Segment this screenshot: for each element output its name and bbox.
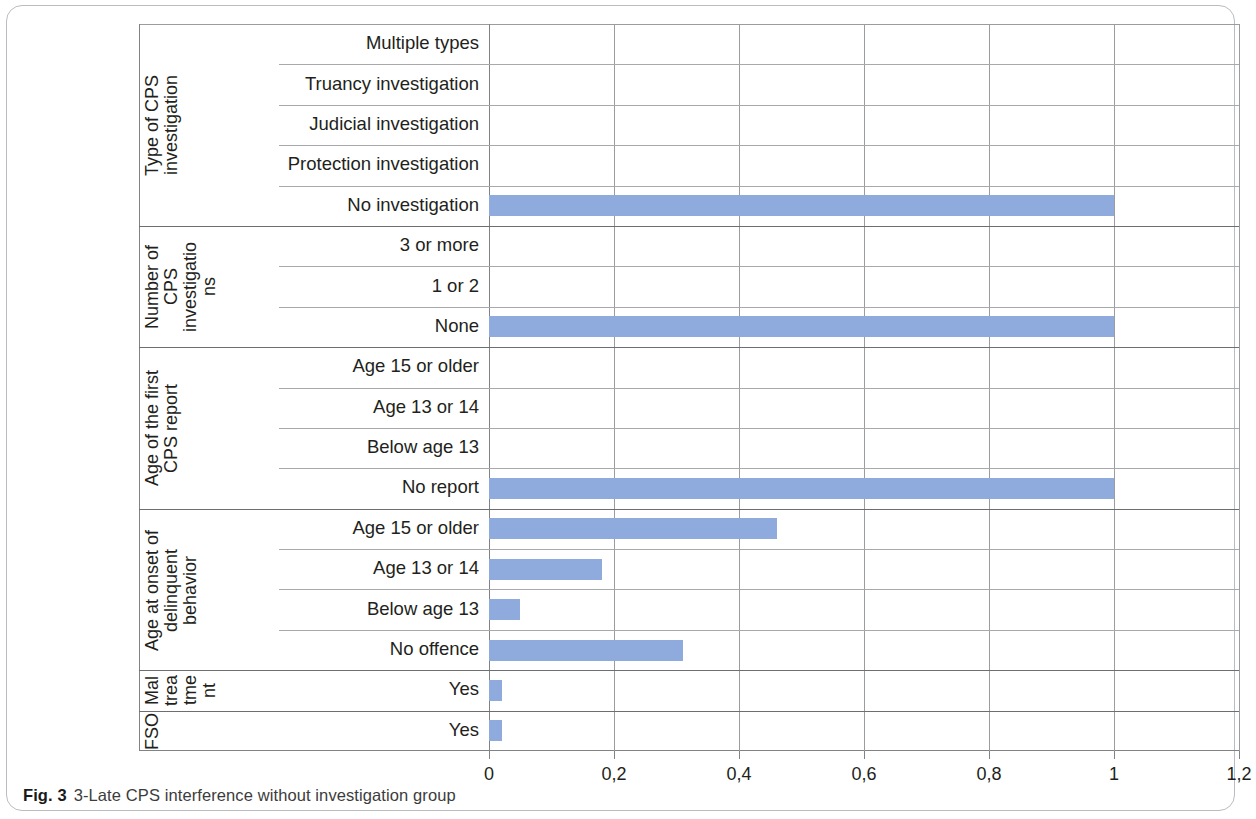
group-title: Type of CPS investigation (143, 24, 185, 226)
bar (489, 720, 502, 741)
row-separator (279, 549, 1239, 550)
x-tick-label: 0,2 (579, 764, 649, 785)
row-separator (279, 428, 1239, 429)
x-tick-mark (864, 751, 865, 759)
plot-bottom-border (139, 750, 1239, 751)
category-label: Yes (279, 678, 479, 700)
x-tick-mark (739, 751, 740, 759)
x-tick-label: 1,2 (1204, 764, 1256, 785)
figure-caption-label: Fig. 3 (23, 786, 67, 804)
bar (489, 559, 602, 580)
x-tick-mark (614, 751, 615, 759)
row-separator (279, 589, 1239, 590)
bar (489, 478, 1114, 499)
row-separator (279, 630, 1239, 631)
category-label: Age 13 or 14 (279, 557, 479, 579)
category-label: Truancy investigation (279, 73, 479, 95)
figure-caption-text: 3-Late CPS interference without investig… (74, 786, 456, 804)
bar (489, 195, 1114, 216)
category-label: Protection investigation (279, 153, 479, 175)
gridline-1,2 (1239, 24, 1240, 751)
x-tick-mark (989, 751, 990, 759)
x-tick-label: 0,4 (704, 764, 774, 785)
plot-top-border (139, 24, 1239, 25)
x-tick-label: 0,8 (954, 764, 1024, 785)
category-label: 3 or more (279, 234, 479, 256)
x-tick-label: 0,6 (829, 764, 899, 785)
group-title: Mal trea tme nt (143, 670, 227, 710)
group-separator (139, 509, 1239, 510)
bar (489, 680, 502, 701)
category-label: Below age 13 (279, 598, 479, 620)
group-title: Number of CPS investigatio ns (143, 226, 227, 347)
figure-card: 00,20,40,60,811,2 Multiple typesTruancy … (6, 5, 1235, 811)
category-label: No report (279, 476, 479, 498)
row-separator (279, 145, 1239, 146)
plot-left-border (139, 24, 140, 751)
category-label: Age 13 or 14 (279, 396, 479, 418)
bar (489, 316, 1114, 337)
row-separator (279, 468, 1239, 469)
category-label: Yes (279, 719, 479, 741)
x-tick-mark (1114, 751, 1115, 759)
category-label: Judicial investigation (279, 113, 479, 135)
category-label: Multiple types (279, 32, 479, 54)
category-label: Age 15 or older (279, 355, 479, 377)
row-separator (279, 307, 1239, 308)
group-separator (139, 347, 1239, 348)
bar (489, 518, 777, 539)
row-separator (279, 105, 1239, 106)
category-label: No offence (279, 638, 479, 660)
row-separator (279, 388, 1239, 389)
x-tick-mark (1239, 751, 1240, 759)
group-separator (139, 226, 1239, 227)
category-label: 1 or 2 (279, 275, 479, 297)
x-tick-label: 0 (454, 764, 524, 785)
category-label: None (279, 315, 479, 337)
figure-caption: Fig. 33-Late CPS interference without in… (23, 786, 1223, 805)
x-tick-mark (489, 751, 490, 759)
category-label: Below age 13 (279, 436, 479, 458)
bar (489, 599, 520, 620)
group-title: Age at onset of delinquent behavior (143, 509, 206, 671)
bar-chart: 00,20,40,60,811,2 Multiple typesTruancy … (139, 24, 1239, 751)
category-label: Age 15 or older (279, 517, 479, 539)
row-separator (279, 64, 1239, 65)
category-label: No investigation (279, 194, 479, 216)
bar (489, 640, 683, 661)
row-separator (279, 186, 1239, 187)
group-title: Age of the first CPS report (143, 347, 185, 509)
group-separator (139, 670, 1239, 671)
group-title: FSO (143, 711, 164, 751)
row-separator (279, 266, 1239, 267)
x-tick-label: 1 (1079, 764, 1149, 785)
group-separator (139, 711, 1239, 712)
